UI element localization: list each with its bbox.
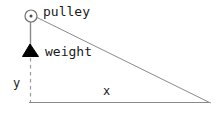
weight-trapezoid: [23, 44, 39, 57]
pulley-label: pulley: [43, 5, 90, 18]
weight-label: weight: [45, 45, 92, 58]
pulley-hub-dot: [30, 15, 33, 18]
x-axis-label: x: [103, 85, 110, 97]
diagram-vector-layer: [0, 0, 224, 119]
y-axis-label: y: [13, 77, 20, 89]
rope-diagonal-segment: [36, 17, 211, 103]
pulley-diagram-canvas: pulley weight y x: [0, 0, 224, 119]
